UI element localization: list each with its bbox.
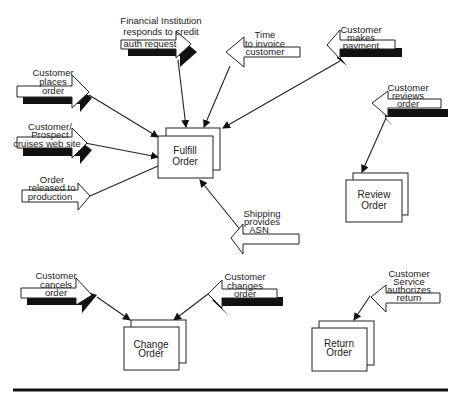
event-customer-service-authorizes-return[interactable]: Customer Service authorizes return xyxy=(371,268,440,312)
event-label-line: order xyxy=(45,287,67,298)
event-label-line: auth request xyxy=(124,38,177,49)
connector-places-to-fulfill xyxy=(89,95,158,137)
event-label-line: production xyxy=(28,191,72,202)
event-label-line: ASN xyxy=(249,224,269,235)
connector-released-to-fulfill xyxy=(90,166,158,196)
event-label-line: order xyxy=(234,288,256,299)
event-customer-changes-order[interactable]: Customer changes order xyxy=(208,271,283,315)
process-change-order[interactable]: Change Order xyxy=(124,320,186,370)
connector-authorizes-to-return xyxy=(354,296,370,320)
connector-fin-to-fulfill xyxy=(178,60,186,127)
event-customer-places-order[interactable]: Customer places order xyxy=(17,67,92,112)
event-label-line: responds to credit xyxy=(123,26,199,37)
event-time-to-invoice[interactable]: Time to invoice customer xyxy=(226,29,300,67)
event-label-line: Financial Institution xyxy=(120,15,201,26)
connector-pay-to-fulfill xyxy=(223,61,340,128)
event-customer-makes-payment[interactable]: Customer makes payment xyxy=(327,24,402,66)
event-shipping-provides-asn[interactable]: Shipping provides ASN xyxy=(231,208,299,254)
event-label-line: payment xyxy=(343,40,380,51)
process-return-order[interactable]: Return Order xyxy=(312,321,374,371)
event-label-line: order xyxy=(42,85,64,96)
connector-cruises-to-fulfill xyxy=(85,143,158,157)
event-customer-cruises-web-site[interactable]: Customer/ Prospect cruises web site xyxy=(13,121,92,164)
connector-reviews-to-review xyxy=(362,118,386,172)
event-label-line: customer xyxy=(245,46,284,57)
event-label-line: order xyxy=(397,98,419,109)
event-order-released-to-production[interactable]: Order released to production xyxy=(22,174,90,210)
event-process-diagram: Fulfill Order Review Order Change Order … xyxy=(0,0,462,400)
process-label-line: Order xyxy=(361,200,387,211)
event-arrow-shadow xyxy=(385,109,448,126)
connector-changes-to-change xyxy=(174,294,208,320)
process-label-line: Fulfill xyxy=(173,145,196,156)
process-label-line: Order xyxy=(172,156,198,167)
process-fulfill-order[interactable]: Fulfill Order xyxy=(158,128,220,178)
event-customer-reviews-order[interactable]: Customer reviews order xyxy=(372,82,448,126)
event-label-line: cruises web site xyxy=(13,138,81,149)
process-label-line: Review xyxy=(358,189,392,200)
connector-cancels-to-change xyxy=(97,297,130,320)
connector-time-to-fulfill xyxy=(204,66,230,127)
event-financial-institution[interactable]: Financial Institution responds to credit… xyxy=(120,15,201,67)
process-label-line: Order xyxy=(138,348,164,359)
process-review-order[interactable]: Review Order xyxy=(346,173,408,222)
event-customer-cancels-order[interactable]: Customer cancels order xyxy=(21,270,97,313)
process-label-line: Order xyxy=(326,347,352,358)
event-arrow-shadow xyxy=(212,297,283,315)
event-label-line: return xyxy=(397,292,422,303)
